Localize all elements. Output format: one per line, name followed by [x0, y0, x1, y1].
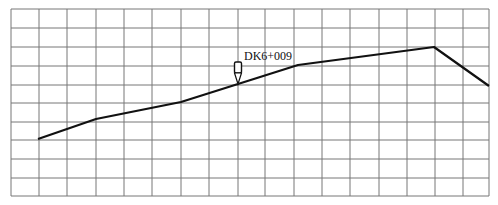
pin-icon [235, 62, 242, 84]
profile-diagram: DK6+009 [0, 0, 498, 205]
station-label: DK6+009 [244, 49, 292, 63]
grid [11, 9, 489, 196]
